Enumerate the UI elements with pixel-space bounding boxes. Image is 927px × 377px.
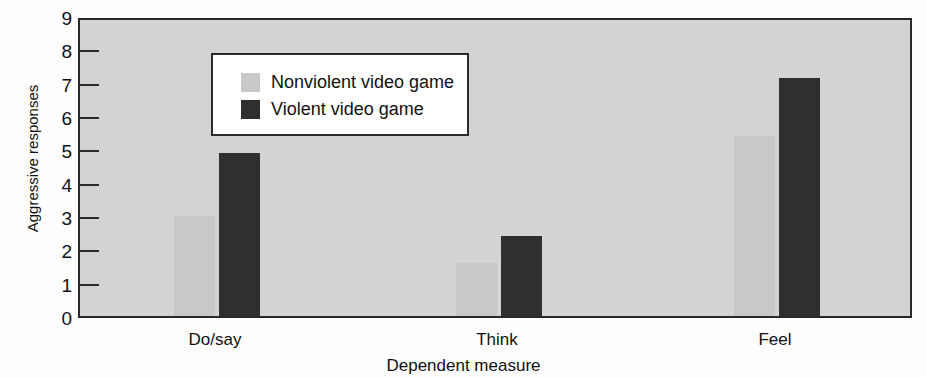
legend-item: Violent video game — [241, 96, 467, 123]
y-axis-tick-mark — [80, 250, 99, 252]
y-axis-tick-label: 3 — [40, 209, 72, 228]
x-axis-title: Dependent measure — [0, 356, 927, 376]
y-axis-tick-label: 7 — [40, 75, 72, 94]
y-axis-tick-mark — [80, 184, 99, 186]
chart-legend: Nonviolent video game Violent video game — [211, 53, 469, 136]
bar-chart-figure: Aggressive responses 0123456789 Nonviole… — [0, 0, 927, 377]
plot-area: Nonviolent video game Violent video game — [78, 18, 912, 318]
bar-do-say-violent — [219, 153, 260, 316]
y-axis-title: Aggressive responses — [24, 39, 41, 279]
bar-feel-nonviolent — [734, 136, 775, 316]
x-axis-category-label: Do/say — [189, 330, 242, 350]
legend-label-nonviolent: Nonviolent video game — [271, 72, 454, 93]
y-axis-tick-mark — [80, 84, 99, 86]
y-axis-tick-label: 1 — [40, 275, 72, 294]
y-axis-tick-mark — [80, 217, 99, 219]
y-axis-tick-label: 0 — [40, 309, 72, 328]
y-axis-tick-label: 5 — [40, 142, 72, 161]
y-axis-tick-label: 8 — [40, 42, 72, 61]
y-axis-tick-labels: 0123456789 — [40, 10, 72, 326]
y-axis-tick-mark — [80, 50, 99, 52]
bar-think-violent — [501, 236, 542, 316]
legend-item: Nonviolent video game — [241, 69, 467, 96]
y-axis-tick-mark — [80, 117, 99, 119]
legend-swatch-violent — [241, 100, 260, 119]
bar-do-say-nonviolent — [174, 216, 215, 316]
y-axis-tick-mark — [80, 150, 99, 152]
bar-feel-violent — [779, 78, 820, 316]
x-axis-category-label: Think — [476, 330, 518, 350]
y-axis-tick-mark — [80, 284, 99, 286]
y-axis-tick-label: 6 — [40, 109, 72, 128]
legend-label-violent: Violent video game — [271, 99, 424, 120]
y-axis-tick-label: 2 — [40, 242, 72, 261]
y-axis-tick-label: 9 — [40, 9, 72, 28]
legend-swatch-nonviolent — [241, 73, 260, 92]
y-axis-tick-marks — [78, 18, 100, 318]
y-axis-tick-label: 4 — [40, 175, 72, 194]
x-axis-category-label: Feel — [758, 330, 791, 350]
bar-think-nonviolent — [456, 263, 497, 316]
